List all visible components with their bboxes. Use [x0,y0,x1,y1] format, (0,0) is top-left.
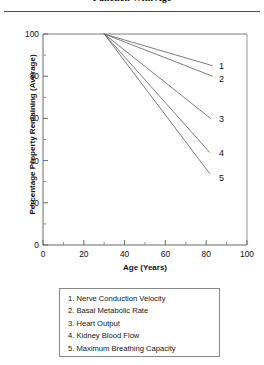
legend-item: 4. Kidney Blood Flow [68,330,219,342]
svg-text:0: 0 [34,240,39,250]
svg-text:80: 80 [202,249,212,259]
series-label-4: 4 [219,148,224,158]
legend-item: 3. Heart Output [68,318,219,330]
svg-text:100: 100 [240,249,254,259]
series-label-1: 1 [219,61,224,71]
series-line-4 [104,34,209,152]
legend-item: 1. Nerve Conduction Velocity [68,293,219,305]
x-tick-labels: 0 20 40 60 80 100 [41,249,255,259]
series-label-5: 5 [219,173,224,183]
svg-text:0: 0 [41,249,46,259]
data-series-lines [104,34,212,173]
x-axis-title: Age (Years) [43,263,247,272]
legend-item: 5. Maximum Breathing Capacity [68,343,219,355]
legend-item: 2. Basal Metabolic Rate [68,305,219,317]
svg-text:40: 40 [120,249,130,259]
y-axis-title: Percentage Property Remaining (Average) [28,40,37,230]
legend: 1. Nerve Conduction Velocity 2. Basal Me… [59,288,220,357]
series-line-3 [104,34,210,118]
svg-text:100: 100 [25,29,39,39]
series-label-3: 3 [219,114,224,124]
plot-frame [43,34,247,245]
figure-container: Function With Age [0,0,264,365]
series-line-1 [104,34,212,66]
svg-text:20: 20 [79,249,89,259]
svg-text:60: 60 [161,249,171,259]
series-number-labels: 1 2 3 4 5 [219,61,224,183]
series-label-2: 2 [219,74,224,84]
